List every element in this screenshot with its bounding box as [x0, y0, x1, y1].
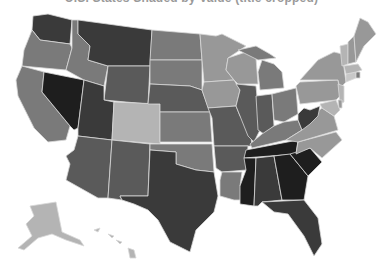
state-ar[interactable] [214, 146, 248, 172]
state-de[interactable] [338, 100, 342, 108]
state-wy[interactable] [104, 66, 150, 104]
state-me[interactable] [354, 18, 376, 62]
state-hi-3[interactable] [116, 240, 122, 244]
state-oh[interactable] [272, 88, 298, 122]
state-ri[interactable] [356, 72, 360, 78]
state-hi[interactable] [128, 248, 136, 258]
state-hi-4[interactable] [94, 228, 100, 232]
state-az[interactable] [66, 136, 112, 198]
us-choropleth-map [0, 0, 383, 273]
state-hi-2[interactable] [108, 234, 114, 238]
state-mt[interactable] [78, 20, 152, 66]
state-ia[interactable] [202, 80, 240, 108]
state-co[interactable] [112, 102, 160, 144]
state-mi[interactable] [258, 60, 284, 90]
state-nd[interactable] [150, 30, 202, 60]
state-ks[interactable] [160, 112, 212, 142]
state-nm[interactable] [108, 140, 150, 200]
state-fl[interactable] [262, 200, 322, 256]
state-ak[interactable] [18, 202, 84, 250]
